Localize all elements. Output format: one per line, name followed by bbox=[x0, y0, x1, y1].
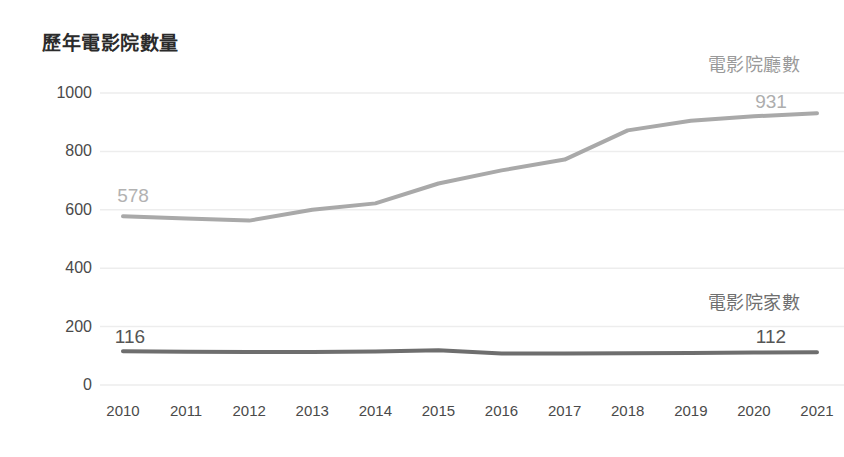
x-axis-tick-label: 2016 bbox=[485, 402, 518, 419]
series-line-screens bbox=[123, 113, 817, 220]
x-axis-tick-label: 2017 bbox=[548, 402, 581, 419]
line-chart-svg bbox=[110, 93, 830, 385]
y-axis: 02004006008001000 bbox=[20, 93, 92, 385]
x-axis-tick-label: 2010 bbox=[106, 402, 139, 419]
y-axis-tick-label: 400 bbox=[32, 259, 92, 277]
y-axis-tick-label: 800 bbox=[32, 142, 92, 160]
plot-area bbox=[110, 93, 830, 385]
x-axis-tick-label: 2018 bbox=[611, 402, 644, 419]
series-label-cinemas: 電影院家數 bbox=[708, 288, 801, 314]
gridlines bbox=[100, 93, 844, 385]
x-axis-tick-label: 2014 bbox=[359, 402, 392, 419]
x-axis-tick-label: 2020 bbox=[737, 402, 770, 419]
series-label-screens: 電影院廳數 bbox=[708, 50, 801, 76]
y-axis-tick-label: 600 bbox=[32, 201, 92, 219]
x-axis: 2010201120122013201420152016201720182019… bbox=[110, 402, 830, 430]
y-axis-tick-label: 0 bbox=[32, 376, 92, 394]
x-axis-tick-label: 2012 bbox=[232, 402, 265, 419]
x-axis-tick-label: 2013 bbox=[296, 402, 329, 419]
x-axis-tick-label: 2021 bbox=[800, 402, 833, 419]
series-end-value-cinemas: 112 bbox=[756, 326, 786, 348]
series-start-value-screens: 578 bbox=[117, 185, 149, 207]
series-end-value-screens: 931 bbox=[755, 91, 787, 113]
page-title: 歷年電影院數量 bbox=[42, 28, 179, 55]
chart-page: 歷年電影院數量 02004006008001000 20102011201220… bbox=[0, 0, 844, 457]
y-axis-tick-label: 200 bbox=[32, 318, 92, 336]
x-axis-tick-label: 2015 bbox=[422, 402, 455, 419]
y-axis-tick-label: 1000 bbox=[32, 84, 92, 102]
series-start-value-cinemas: 116 bbox=[115, 326, 145, 348]
x-axis-tick-label: 2019 bbox=[674, 402, 707, 419]
x-axis-tick-label: 2011 bbox=[170, 402, 202, 419]
series-line-cinemas bbox=[123, 350, 817, 353]
